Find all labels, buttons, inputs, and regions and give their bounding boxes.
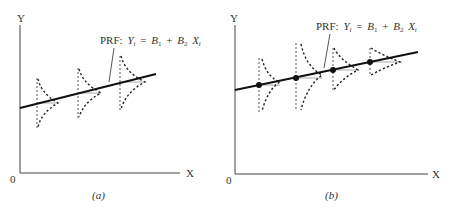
label-pointer: [324, 34, 330, 68]
prf-equation-label: PRF: Yi = B1 + B2 Xi: [100, 34, 201, 48]
label-pointer: [109, 48, 114, 82]
population-regression-line: [235, 52, 418, 90]
x-axis-label: X: [432, 168, 440, 180]
prf-equation-label: PRF: Yi = B1 + B2 Xi: [316, 20, 417, 34]
panel-caption: (a): [92, 189, 105, 202]
x-axis-label: X: [186, 167, 194, 179]
conditional-mean-point: [293, 75, 299, 81]
conditional-mean-point: [256, 82, 262, 88]
panel-b: Y X 0 (b) PRF:: [226, 12, 440, 202]
conditional-mean-point: [367, 59, 373, 65]
panel-caption: (b): [325, 189, 338, 202]
conditional-mean-point: [330, 67, 336, 73]
panel-a: Y X 0 (a) PRF: Yi = B1 + B2 Xi: [10, 12, 201, 202]
origin-label: 0: [10, 173, 16, 185]
origin-label: 0: [226, 174, 232, 186]
figure: Y X 0 (a) PRF: Yi = B1 + B2 Xi: [0, 0, 452, 210]
y-axis-label: Y: [230, 12, 238, 24]
y-axis-label: Y: [17, 12, 25, 24]
